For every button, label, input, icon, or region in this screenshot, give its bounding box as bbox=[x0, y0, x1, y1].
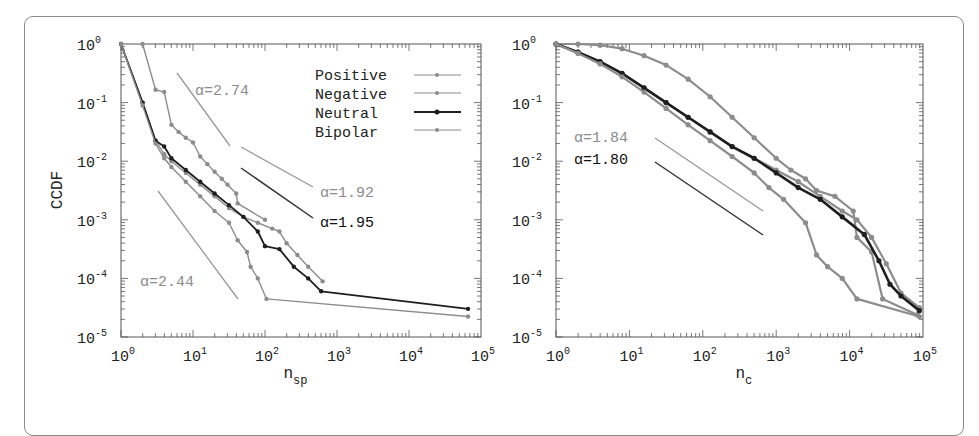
legend-label-negative: Negative bbox=[315, 87, 387, 104]
legend: Positive Negative Neutral Bipolar bbox=[315, 68, 461, 142]
y-tick-label: 10-2 bbox=[512, 152, 542, 172]
left-x-tick-labels: 100101102103104105 bbox=[111, 346, 495, 366]
y-tick-label: 10-4 bbox=[512, 269, 542, 289]
x-tick-label: 103 bbox=[327, 346, 351, 366]
x-tick-label: 105 bbox=[913, 346, 937, 366]
right-x-tick-labels: 100101102103104105 bbox=[546, 346, 937, 366]
series-neutral bbox=[553, 41, 922, 313]
series-negative bbox=[119, 42, 325, 284]
ref-line-alpha-1.80 bbox=[655, 162, 763, 235]
x-tick-label: 102 bbox=[693, 346, 717, 366]
left-y-tick-labels: 10010-110-210-310-410-5 bbox=[77, 35, 107, 348]
x-tick-label: 100 bbox=[546, 346, 570, 366]
x-tick-label: 104 bbox=[399, 346, 423, 366]
right-reference-lines bbox=[655, 138, 763, 235]
annotation-alpha-1.84: α=1.84 bbox=[574, 130, 628, 147]
right-axis-ticks bbox=[556, 44, 923, 337]
series-negative bbox=[553, 41, 922, 310]
y-tick-label: 100 bbox=[77, 35, 101, 55]
right-plot-area bbox=[556, 44, 923, 337]
right-series bbox=[553, 41, 922, 319]
annotation-alpha-1.80: α=1.80 bbox=[574, 152, 628, 169]
x-tick-label: 101 bbox=[619, 346, 643, 366]
y-tick-label: 10-5 bbox=[512, 328, 542, 348]
series-positive bbox=[553, 41, 919, 317]
annotation-alpha-1.92: α=1.92 bbox=[320, 185, 374, 202]
legend-swatch-bipolar bbox=[414, 128, 461, 132]
x-tick-label: 103 bbox=[766, 346, 790, 366]
annotation-alpha-2.74: α=2.74 bbox=[195, 83, 249, 100]
legend-label-neutral: Neutral bbox=[315, 106, 378, 123]
series-bipolar bbox=[553, 41, 922, 319]
y-tick-label: 10-3 bbox=[77, 211, 107, 231]
legend-label-bipolar: Bipolar bbox=[315, 125, 378, 142]
right-y-tick-labels: 10010-110-210-310-410-5 bbox=[512, 35, 542, 348]
right-chart-panel: 100101102103104105 10010-110-210-310-410… bbox=[512, 35, 937, 388]
left-chart-panel: 100101102103104105 10010-110-210-310-410… bbox=[49, 35, 495, 388]
y-tick-label: 10-4 bbox=[77, 269, 107, 289]
left-y-axis-label: CCDF bbox=[49, 171, 67, 209]
x-tick-label: 102 bbox=[255, 346, 279, 366]
left-x-axis-label-main: n bbox=[283, 365, 293, 383]
left-axis-ticks bbox=[121, 44, 481, 337]
ref-line-alpha-1.95 bbox=[241, 168, 313, 218]
annotation-alpha-1.95: α=1.95 bbox=[320, 215, 374, 232]
series-positive bbox=[140, 42, 267, 222]
x-tick-label: 105 bbox=[471, 346, 495, 366]
ref-line-alpha-1.92 bbox=[241, 147, 313, 187]
y-tick-label: 100 bbox=[512, 35, 536, 55]
y-tick-label: 10-5 bbox=[77, 328, 107, 348]
legend-swatch-negative bbox=[414, 91, 461, 95]
x-tick-label: 104 bbox=[840, 346, 864, 366]
right-x-axis-label-sub: c bbox=[745, 374, 752, 388]
x-tick-label: 100 bbox=[111, 346, 135, 366]
y-tick-label: 10-1 bbox=[512, 94, 542, 114]
left-reference-lines bbox=[158, 73, 313, 299]
right-x-axis-label-main: n bbox=[735, 365, 745, 383]
legend-swatch-positive bbox=[414, 73, 461, 77]
left-plot-area bbox=[121, 44, 481, 337]
y-tick-label: 10-1 bbox=[77, 94, 107, 114]
y-tick-label: 10-2 bbox=[77, 152, 107, 172]
legend-swatch-neutral bbox=[414, 110, 461, 115]
y-tick-label: 10-3 bbox=[512, 211, 542, 231]
x-tick-label: 101 bbox=[183, 346, 207, 366]
left-x-axis-label-sub: sp bbox=[293, 374, 307, 388]
annotation-alpha-2.44: α=2.44 bbox=[140, 274, 194, 291]
ref-line-alpha-1.84 bbox=[655, 138, 763, 211]
legend-label-positive: Positive bbox=[315, 68, 387, 85]
